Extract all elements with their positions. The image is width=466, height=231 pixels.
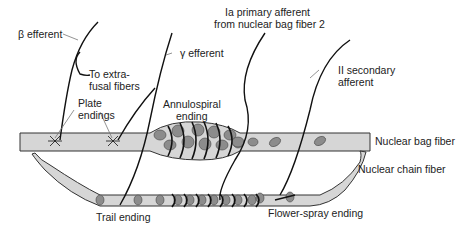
label-ii-1: II secondary	[338, 64, 395, 76]
label-extrafusal-2: fusal fibers	[89, 80, 140, 92]
gamma-efferent-fiber	[120, 33, 172, 205]
label-trail-ending: Trail ending	[96, 211, 150, 223]
label-ia-2: from nuclear bag fiber 2	[214, 18, 325, 30]
spindle-diagram	[0, 0, 466, 231]
label-ia-1: Ia primary afferent	[225, 6, 310, 18]
label-nuclear-bag: Nuclear bag fiber	[375, 135, 455, 147]
label-extrafusal-1: To extra-	[89, 68, 130, 80]
label-gamma-efferent: γ efferent	[180, 47, 224, 59]
label-plate-1: Plate	[78, 97, 102, 109]
label-annulospiral-2: ending	[176, 110, 208, 122]
ia-afferent-fiber	[220, 33, 265, 200]
label-flower-spray: Flower-spray ending	[268, 207, 363, 219]
label-annulospiral-1: Annulospiral	[163, 98, 221, 110]
label-nuclear-chain: Nuclear chain fiber	[358, 163, 446, 175]
label-beta-efferent: β efferent	[18, 28, 62, 40]
label-ii-2: afferent	[338, 76, 373, 88]
label-plate-2: endings	[78, 109, 115, 121]
